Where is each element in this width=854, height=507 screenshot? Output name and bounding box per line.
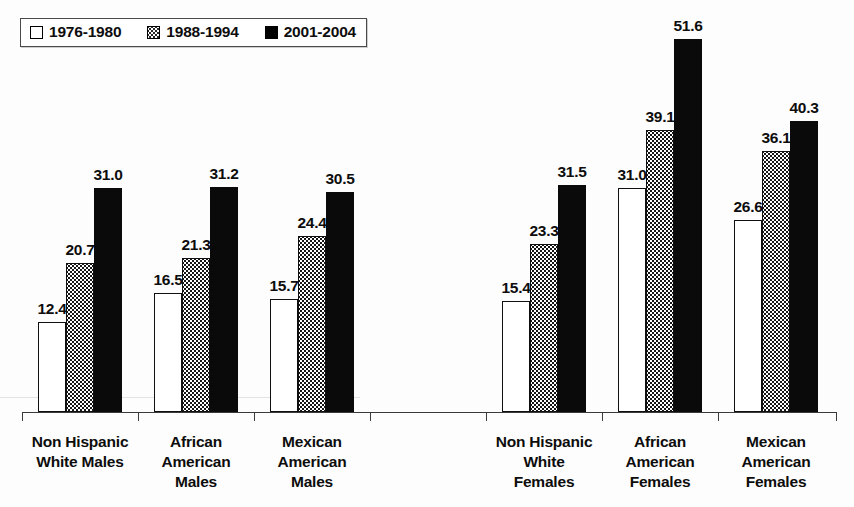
x-axis-tick-5	[486, 412, 487, 421]
bar-value-label: 26.6	[734, 198, 763, 216]
category-label-line: African	[625, 432, 694, 452]
bar-value-label: 23.3	[530, 222, 559, 240]
bar-value-label: 36.1	[762, 129, 791, 147]
x-axis-tick-2	[138, 412, 139, 421]
bar-2001-2004-6	[790, 121, 818, 412]
bar-1976-1980-3	[270, 299, 298, 412]
x-axis-tick-1	[22, 412, 23, 421]
bar-1988-1994-2	[182, 258, 210, 412]
bar-value-label: 40.3	[790, 99, 819, 117]
bar-1988-1994-6	[762, 151, 790, 412]
category-label-line: African	[161, 432, 230, 452]
category-label-line: Females	[625, 472, 694, 492]
bar-2001-2004-3	[326, 192, 354, 412]
category-label-line: American	[625, 452, 694, 472]
bar-value-label: 31.0	[618, 166, 647, 184]
category-label-3: MexicanAmericanMales	[277, 432, 346, 492]
category-label-line: Females	[741, 472, 810, 492]
category-label-line: White	[496, 452, 593, 472]
x-axis-tick-7	[718, 412, 719, 421]
bar-2001-2004-2	[210, 187, 238, 412]
bar-value-label: 12.4	[38, 300, 67, 318]
bar-1988-1994-4	[530, 244, 558, 412]
bar-1976-1980-6	[734, 220, 762, 412]
category-label-line: White Males	[32, 452, 129, 472]
bar-value-label: 31.5	[558, 163, 587, 181]
x-axis-tick-8	[836, 412, 837, 421]
bar-1988-1994-3	[298, 236, 326, 412]
bar-1976-1980-4	[502, 301, 530, 412]
bar-1976-1980-5	[618, 188, 646, 412]
x-axis-tick-4	[370, 412, 371, 421]
bar-1976-1980-2	[154, 293, 182, 412]
category-label-4: Non HispanicWhiteFemales	[496, 432, 593, 492]
category-label-line: Non Hispanic	[32, 432, 129, 452]
bar-chart: 1976-1980 1988-1994 2001-2004 12.420.731…	[0, 0, 854, 507]
bar-value-label: 51.6	[674, 17, 703, 35]
bar-value-label: 39.1	[646, 108, 675, 126]
bar-1988-1994-1	[66, 263, 94, 412]
bar-2001-2004-4	[558, 185, 586, 412]
bar-2001-2004-1	[94, 188, 122, 412]
bar-value-label: 31.2	[210, 165, 239, 183]
plot-area: 12.420.731.0Non HispanicWhite Males16.52…	[0, 0, 854, 507]
bar-value-label: 21.3	[182, 236, 211, 254]
category-label-6: MexicanAmericanFemales	[741, 432, 810, 492]
category-label-5: AfricanAmericanFemales	[625, 432, 694, 492]
bar-value-label: 15.7	[270, 277, 299, 295]
x-axis-tick-6	[602, 412, 603, 421]
x-axis-line	[22, 412, 836, 413]
category-label-line: American	[741, 452, 810, 472]
bar-2001-2004-5	[674, 39, 702, 412]
category-label-line: Non Hispanic	[496, 432, 593, 452]
category-label-line: Females	[496, 472, 593, 492]
bar-value-label: 31.0	[94, 166, 123, 184]
bar-value-label: 20.7	[66, 241, 95, 259]
bar-value-label: 30.5	[326, 170, 355, 188]
category-label-1: Non HispanicWhite Males	[32, 432, 129, 472]
category-label-line: Mexican	[741, 432, 810, 452]
category-label-line: Mexican	[277, 432, 346, 452]
category-label-line: American	[161, 452, 230, 472]
category-label-line: Males	[277, 472, 346, 492]
bar-1988-1994-5	[646, 130, 674, 412]
bar-value-label: 16.5	[154, 271, 183, 289]
bar-value-label: 24.4	[298, 214, 327, 232]
category-label-line: Males	[161, 472, 230, 492]
bar-value-label: 15.4	[502, 279, 531, 297]
category-label-2: AfricanAmericanMales	[161, 432, 230, 492]
x-axis-tick-3	[254, 412, 255, 421]
category-label-line: American	[277, 452, 346, 472]
bar-1976-1980-1	[38, 322, 66, 412]
